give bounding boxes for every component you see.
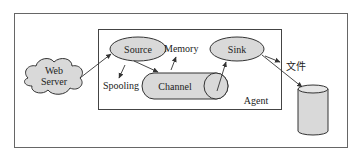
- sink-node: Sink: [210, 37, 264, 61]
- flume-architecture-diagram: Agent Web Server Source Sink Memory Chan…: [0, 0, 360, 156]
- source-node: Source: [110, 37, 166, 61]
- agent-label: Agent: [244, 95, 269, 106]
- web-server-label-line2: Server: [41, 76, 68, 87]
- arrow-webserver-to-source: [80, 54, 111, 78]
- channel-node: Channel: [142, 73, 228, 99]
- web-server-label-line1: Web: [45, 65, 63, 76]
- sink-label: Sink: [228, 44, 246, 55]
- arrow-source-to-spooling: [119, 65, 125, 78]
- memory-label: Memory: [164, 43, 198, 54]
- file-label: 文件: [286, 60, 306, 72]
- source-label: Source: [124, 44, 152, 55]
- spooling-label: Spooling: [103, 80, 139, 91]
- arrow-channel-to-memory: [171, 57, 176, 70]
- channel-label: Channel: [158, 81, 192, 92]
- arrow-source-to-channel: [134, 61, 158, 72]
- web-server-cloud: Web Server: [25, 59, 83, 95]
- database-cylinder: [298, 85, 328, 135]
